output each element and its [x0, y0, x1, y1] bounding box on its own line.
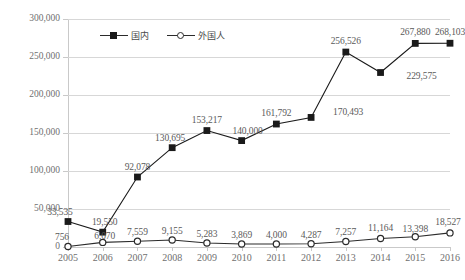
data-point-marker: [377, 69, 384, 76]
legend-item-foreign: 外国人: [167, 29, 225, 42]
data-point-marker: [273, 121, 280, 128]
data-point-label: 18,527: [435, 217, 461, 227]
chart-legend: 国内 外国人: [100, 29, 225, 42]
legend-item-domestic: 国内: [100, 29, 149, 42]
data-point-label: 3,869: [231, 230, 252, 240]
legend-item-label: 外国人: [198, 29, 225, 42]
series-line: [68, 43, 450, 232]
data-point-marker: [239, 241, 245, 247]
data-point-marker: [204, 127, 211, 134]
data-point-label: 153,217: [192, 115, 222, 125]
data-point-marker: [377, 235, 383, 241]
data-point-label: 267,880: [400, 27, 430, 37]
data-point-marker: [65, 243, 71, 249]
data-point-label: 33,535: [47, 207, 73, 217]
data-point-label: 4,000: [266, 230, 287, 240]
data-point-marker: [447, 40, 454, 47]
data-point-label: 170,493: [333, 107, 363, 117]
data-point-marker: [308, 114, 315, 121]
series-line: [68, 233, 450, 247]
data-point-label: 92,078: [125, 162, 151, 172]
data-point-marker: [65, 218, 72, 225]
open-circle-marker-icon: [167, 31, 195, 41]
data-point-marker: [204, 240, 210, 246]
data-point-marker: [342, 49, 349, 56]
data-point-label: 19,550: [92, 217, 118, 227]
data-point-label: 13,398: [403, 224, 429, 234]
data-point-label: 5,283: [196, 229, 217, 239]
data-point-marker: [273, 241, 279, 247]
data-point-label: 7,559: [127, 227, 148, 237]
data-point-label: 140,000: [233, 126, 263, 136]
data-point-marker: [343, 238, 349, 244]
data-point-marker: [134, 238, 140, 244]
data-point-label: 161,792: [261, 108, 291, 118]
data-point-label: 7,257: [335, 227, 356, 237]
data-point-label: 9,155: [162, 226, 183, 236]
data-point-marker: [412, 234, 418, 240]
data-point-label: 11,164: [368, 223, 393, 233]
data-point-label: 756: [55, 232, 69, 242]
data-point-label: 6,070: [94, 231, 115, 241]
data-point-marker: [134, 174, 141, 181]
data-point-label: 256,526: [331, 36, 361, 46]
data-point-marker: [238, 137, 245, 144]
data-point-marker: [412, 40, 419, 47]
data-point-label: 268,103: [435, 27, 465, 37]
data-point-label: 4,287: [301, 230, 322, 240]
legend-item-label: 国内: [131, 29, 149, 42]
data-point-marker: [447, 230, 453, 236]
data-point-label: 229,575: [407, 71, 437, 81]
data-point-label: 130,695: [155, 133, 185, 143]
data-point-marker: [169, 237, 175, 243]
data-point-marker: [169, 144, 176, 151]
data-point-marker: [308, 241, 314, 247]
filled-square-marker-icon: [100, 31, 128, 41]
